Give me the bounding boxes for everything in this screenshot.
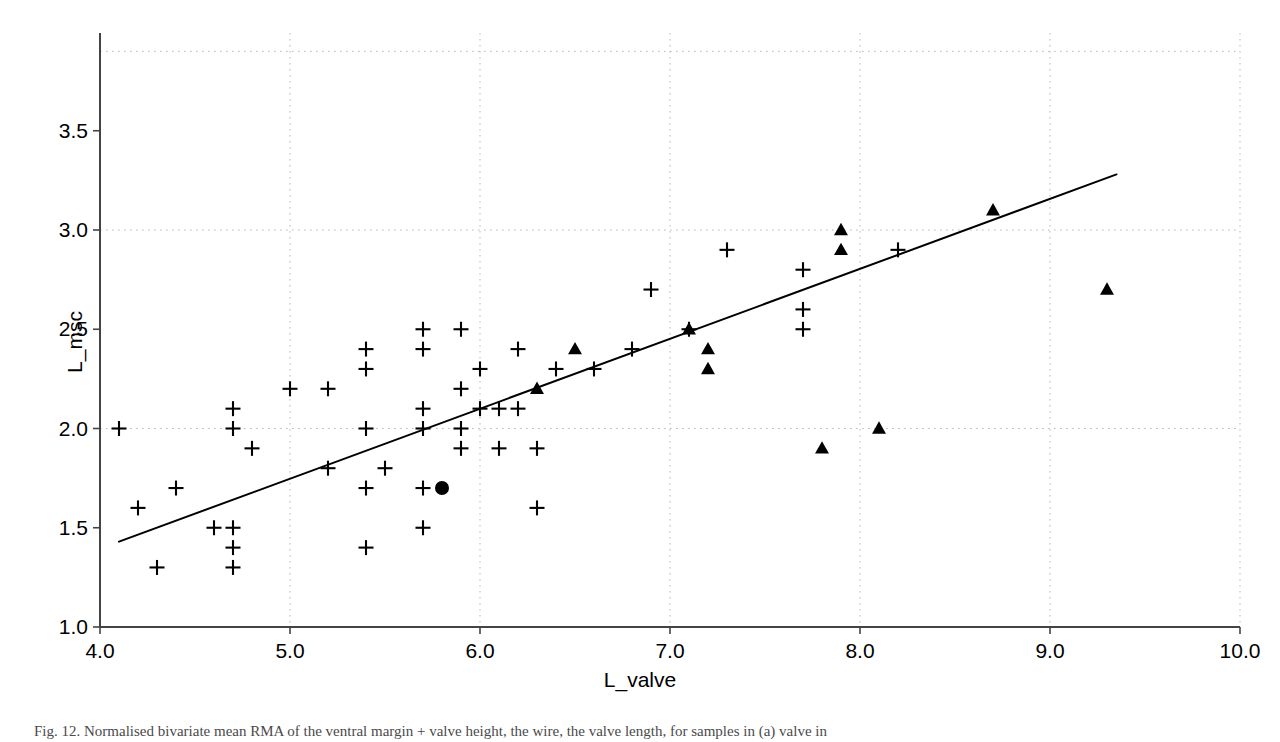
x-tick-label: 8.0 — [845, 639, 874, 663]
marker-plus — [416, 401, 431, 416]
marker-plus — [511, 401, 526, 416]
marker-plus — [378, 461, 393, 476]
marker-triangle — [530, 382, 544, 395]
marker-plus — [473, 361, 488, 376]
marker-plus — [796, 262, 811, 277]
marker-plus — [321, 381, 336, 396]
marker-plus — [530, 500, 545, 515]
x-tick-label: 4.0 — [85, 639, 114, 663]
tick-marks — [93, 131, 1240, 634]
marker-plus — [359, 540, 374, 555]
series-triangle-markers — [530, 203, 1114, 454]
marker-plus — [416, 481, 431, 496]
marker-plus — [150, 560, 165, 575]
marker-plus — [416, 342, 431, 357]
marker-plus — [359, 342, 374, 357]
marker-plus — [720, 242, 735, 257]
marker-triangle — [834, 243, 848, 255]
marker-plus — [359, 361, 374, 376]
marker-triangle — [1100, 282, 1114, 295]
marker-plus — [530, 441, 545, 456]
x-tick-label: 6.0 — [465, 639, 494, 663]
marker-triangle — [701, 342, 715, 354]
series-circle-marker — [435, 481, 449, 495]
marker-triangle — [986, 203, 1000, 216]
x-axis-title: L_valve — [0, 668, 1280, 692]
marker-plus — [454, 381, 469, 396]
marker-plus — [549, 361, 564, 376]
marker-plus — [416, 322, 431, 337]
marker-plus — [587, 361, 602, 376]
marker-triangle — [568, 342, 582, 354]
y-tick-label: 1.5 — [10, 516, 88, 540]
marker-triangle — [834, 223, 848, 235]
marker-plus — [454, 421, 469, 436]
marker-plus — [891, 242, 906, 257]
x-tick-label: 9.0 — [1035, 639, 1064, 663]
marker-plus — [359, 421, 374, 436]
marker-plus — [226, 401, 241, 416]
marker-plus — [796, 302, 811, 317]
y-tick-label: 1.0 — [10, 615, 88, 639]
marker-plus — [245, 441, 260, 456]
figure-page: 4.05.06.07.08.09.010.01.01.52.02.53.03.5… — [0, 0, 1280, 742]
marker-plus — [283, 381, 298, 396]
marker-triangle — [701, 362, 715, 374]
x-tick-label: 5.0 — [275, 639, 304, 663]
marker-plus — [416, 421, 431, 436]
y-tick-label: 3.0 — [10, 218, 88, 242]
marker-plus — [416, 520, 431, 535]
marker-circle — [435, 481, 449, 495]
series-cross-markers — [112, 242, 906, 575]
marker-plus — [511, 342, 526, 357]
marker-plus — [207, 520, 222, 535]
y-tick-label: 3.5 — [10, 119, 88, 143]
x-tick-label: 10.0 — [1220, 639, 1261, 663]
marker-plus — [112, 421, 127, 436]
plot-canvas — [0, 0, 1280, 700]
figure-caption: Fig. 12. Normalised bivariate mean RMA o… — [34, 722, 1254, 742]
marker-plus — [226, 560, 241, 575]
marker-plus — [226, 421, 241, 436]
marker-plus — [454, 322, 469, 337]
marker-plus — [473, 401, 488, 416]
marker-plus — [796, 322, 811, 337]
x-tick-label: 7.0 — [655, 639, 684, 663]
data-points — [112, 203, 1114, 575]
marker-plus — [226, 520, 241, 535]
marker-plus — [359, 481, 374, 496]
marker-triangle — [815, 441, 829, 453]
marker-triangle — [872, 421, 886, 434]
scatter-plot-figure: 4.05.06.07.08.09.010.01.01.52.02.53.03.5… — [0, 0, 1280, 700]
marker-plus — [454, 441, 469, 456]
marker-plus — [226, 540, 241, 555]
grid-lines — [100, 33, 1240, 627]
marker-plus — [492, 441, 507, 456]
marker-plus — [169, 481, 184, 496]
y-axis-title: L_msc — [63, 262, 87, 422]
marker-plus — [131, 500, 146, 515]
marker-plus — [644, 282, 659, 297]
